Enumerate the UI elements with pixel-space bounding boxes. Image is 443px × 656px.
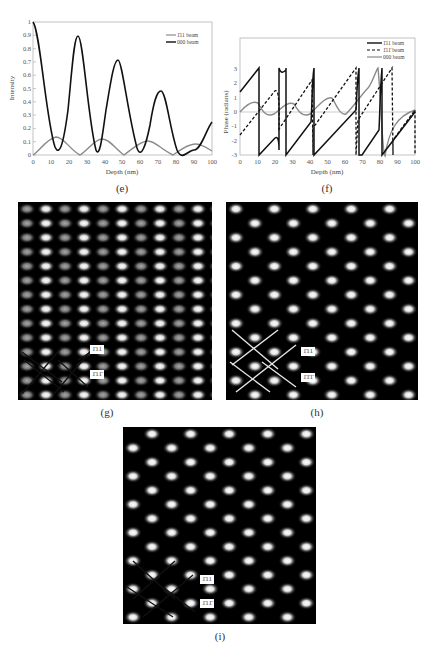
svg-text:80: 80 xyxy=(377,158,384,165)
svg-text:0: 0 xyxy=(238,158,241,165)
svg-text:2: 2 xyxy=(234,79,237,86)
svg-text:0.4: 0.4 xyxy=(23,98,32,105)
svg-text:Phase (radians): Phase (radians) xyxy=(222,90,230,134)
chart-e: 00.10.2 0.30.40.5 0.60.70.8 0.91 01020 3… xyxy=(0,0,222,200)
caption-g: (g) xyxy=(87,406,127,418)
phase-chart: 321 0-1-2-3 01020 304050 607080 90100 De… xyxy=(222,0,443,200)
svg-text:100: 100 xyxy=(410,158,420,165)
svg-text:70: 70 xyxy=(359,158,366,165)
svg-text:Depth (nm): Depth (nm) xyxy=(106,168,139,176)
chart-f: 321 0-1-2-3 01020 304050 607080 90100 De… xyxy=(222,0,443,200)
svg-text:10: 10 xyxy=(254,158,261,165)
svg-text:10: 10 xyxy=(48,158,55,165)
svg-text:0.1: 0.1 xyxy=(23,138,31,145)
miller-label-i-1: 1̄11 xyxy=(200,575,214,584)
svg-text:40: 40 xyxy=(102,158,109,165)
caption-i: (i) xyxy=(200,630,240,642)
intensity-chart: 00.10.2 0.30.40.5 0.60.70.8 0.91 01020 3… xyxy=(0,0,222,200)
svg-text:000 beam: 000 beam xyxy=(383,54,405,60)
svg-text:1: 1 xyxy=(234,94,237,101)
svg-text:0.6: 0.6 xyxy=(23,71,32,78)
miller-label-h-2: 1̄1̄1̄ xyxy=(301,373,315,382)
svg-text:20: 20 xyxy=(272,158,279,165)
svg-text:40: 40 xyxy=(307,158,314,165)
svg-text:Intensity: Intensity xyxy=(8,75,16,100)
svg-text:-2: -2 xyxy=(232,137,237,144)
svg-text:1̄11 beam: 1̄11 beam xyxy=(383,40,405,46)
svg-text:90: 90 xyxy=(191,158,198,165)
svg-text:000 beam: 000 beam xyxy=(177,39,199,45)
svg-text:60: 60 xyxy=(137,158,144,165)
svg-text:90: 90 xyxy=(394,158,401,165)
svg-text:0.8: 0.8 xyxy=(23,45,31,52)
svg-text:-3: -3 xyxy=(232,151,237,158)
caption-h: (h) xyxy=(297,406,337,418)
svg-text:0.9: 0.9 xyxy=(23,31,31,38)
lattice-image-g: 1̄11 1̄11̄ xyxy=(18,202,212,400)
legend-e: 1̄11 beam 000 beam xyxy=(166,32,199,45)
caption-e: (e) xyxy=(102,182,142,194)
svg-text:70: 70 xyxy=(155,158,162,165)
svg-text:80: 80 xyxy=(173,158,180,165)
svg-text:50: 50 xyxy=(324,158,331,165)
lattice-image-i: 1̄11 1̄11̄ xyxy=(123,427,316,624)
lattice-image-h: 1̄11 1̄1̄1̄ xyxy=(226,202,418,400)
svg-text:0.5: 0.5 xyxy=(23,85,31,92)
svg-text:20: 20 xyxy=(66,158,73,165)
caption-f: (f) xyxy=(307,182,347,194)
svg-text:100: 100 xyxy=(207,158,217,165)
svg-text:0: 0 xyxy=(31,158,34,165)
svg-text:30: 30 xyxy=(84,158,91,165)
svg-text:0: 0 xyxy=(28,151,31,158)
svg-text:Depth (nm): Depth (nm) xyxy=(311,168,344,176)
svg-text:0.7: 0.7 xyxy=(23,58,32,65)
svg-text:0.3: 0.3 xyxy=(23,111,31,118)
svg-text:0: 0 xyxy=(234,108,237,115)
svg-text:50: 50 xyxy=(119,158,126,165)
svg-text:60: 60 xyxy=(342,158,349,165)
svg-text:0.2: 0.2 xyxy=(23,124,31,131)
miller-label-g-1: 1̄11 xyxy=(90,345,104,354)
svg-text:1̄11̄ beam: 1̄11̄ beam xyxy=(383,47,405,53)
miller-label-g-2: 1̄11̄ xyxy=(90,370,104,379)
svg-text:-1: -1 xyxy=(232,122,237,129)
miller-label-h-1: 1̄11 xyxy=(301,347,315,356)
legend-f: 1̄11 beam 1̄11̄ beam 000 beam xyxy=(367,40,405,60)
svg-text:1̄11 beam: 1̄11 beam xyxy=(177,32,199,38)
svg-text:1: 1 xyxy=(28,18,31,25)
svg-text:3: 3 xyxy=(234,65,237,72)
svg-text:30: 30 xyxy=(289,158,296,165)
miller-label-i-2: 1̄11̄ xyxy=(200,599,214,608)
